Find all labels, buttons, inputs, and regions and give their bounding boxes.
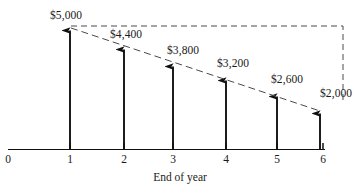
x-axis-title: End of year bbox=[120, 172, 240, 184]
value-label-year-5: $2,600 bbox=[271, 74, 303, 86]
axis-ticks bbox=[70, 143, 323, 150]
tick-label-0: 0 bbox=[0, 154, 18, 166]
tick-label-1: 1 bbox=[60, 154, 80, 166]
tick-label-5: 5 bbox=[267, 154, 287, 166]
tick-label-3: 3 bbox=[163, 154, 183, 166]
tick-label-2: 2 bbox=[114, 154, 134, 166]
tick-label-4: 4 bbox=[216, 154, 236, 166]
value-label-year-1: $5,000 bbox=[50, 10, 82, 22]
tick-label-6: 6 bbox=[313, 154, 333, 166]
value-label-year-2: $4,400 bbox=[110, 29, 142, 41]
cash-flow-diagram: $5,000 $4,400 $3,800 $3,200 $2,600 $2,00… bbox=[0, 0, 363, 189]
value-label-year-6: $2,000 bbox=[320, 88, 352, 100]
trend-line bbox=[71, 28, 320, 111]
value-label-year-3: $3,800 bbox=[167, 45, 199, 57]
value-label-year-4: $3,200 bbox=[217, 58, 249, 70]
